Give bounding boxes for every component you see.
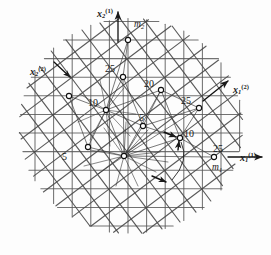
sigma-value-label-0: 25 — [105, 64, 115, 74]
vector-label-base: m — [134, 19, 141, 29]
sigma-node-25-2 — [196, 105, 201, 110]
sigma-value-label-4: 5 — [139, 113, 144, 123]
vector-label-subscript: 1 — [219, 166, 222, 173]
sigma-node-5-6 — [85, 144, 90, 149]
sigma-value-label-3: 10 — [88, 98, 98, 108]
axis-label-x2-2: x2(2) — [30, 66, 46, 78]
hub-ray-7 — [124, 122, 126, 156]
vector-label-base: m — [212, 162, 219, 172]
axis-label-superscript: (2) — [241, 83, 249, 90]
node-m2 — [125, 37, 130, 42]
vector-label-m2: m2 — [134, 20, 144, 30]
axis-label-x2-1: x2(1) — [97, 8, 113, 20]
lattice-2-grid — [19, 19, 242, 234]
sigma-value-label-5: 10 — [184, 129, 194, 139]
sigma-value-label-2: 25 — [181, 96, 191, 106]
connector-s5-s7 — [180, 138, 214, 157]
sigma-value-label-1: 20 — [144, 79, 154, 89]
axis-label-x1-2: x1(2) — [233, 84, 249, 96]
sigma-node-5-4 — [140, 123, 145, 128]
axis-label-superscript: (2) — [38, 65, 46, 72]
annotation-arrow-m-up — [178, 141, 179, 150]
node-left — [66, 93, 71, 98]
lattice-2-line-a — [143, 164, 235, 233]
node-hub — [121, 153, 126, 158]
sigma-node-20-1 — [158, 87, 163, 92]
axis-label-superscript: (1) — [105, 7, 113, 14]
sigma-node-25-7 — [211, 154, 216, 159]
sigma-node-10-3 — [103, 107, 108, 112]
lattice-2-line-b — [66, 40, 196, 212]
axis-arrow-x2-2 — [54, 62, 70, 77]
axis-label-x1-1: x1(1) — [240, 152, 256, 164]
sigma-node-25-0 — [120, 74, 125, 79]
sigma-value-label-7: 25 — [213, 144, 223, 154]
axis-label-superscript: (1) — [248, 151, 256, 158]
lattice-canvas — [0, 0, 271, 255]
vector-label-m1: m1 — [212, 163, 222, 173]
sigma-value-label-6: 5 — [62, 152, 67, 162]
csl-diagram-figure: 25202510510525x2(1)x1(1)x1(2)x2(2)m2m1 — [0, 0, 271, 255]
sigma-node-10-5 — [177, 135, 182, 140]
vector-label-subscript: 2 — [141, 23, 144, 30]
sigma10-ray-6 — [100, 80, 106, 110]
